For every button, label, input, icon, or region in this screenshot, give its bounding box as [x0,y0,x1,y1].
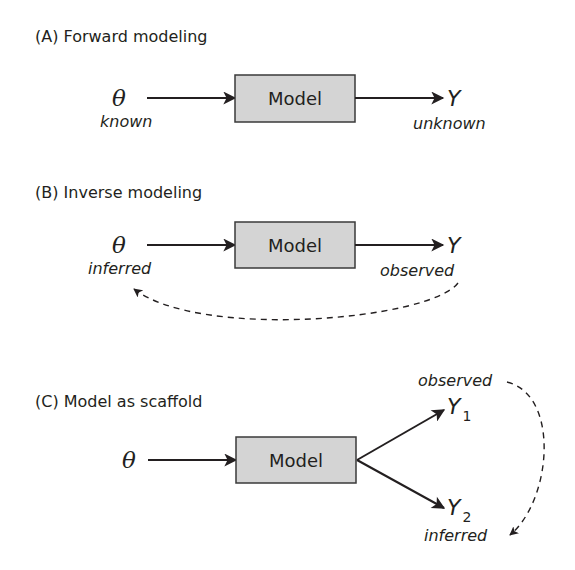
panel-c-model-as-scaffold: (C) Model as scaffold observed θ Model Y… [35,371,544,545]
model-box-label: Model [268,88,322,109]
panel-a-forward-modeling: (A) Forward modeling θ known Model Y unk… [35,27,486,133]
modeling-diagram: (A) Forward modeling θ known Model Y unk… [0,0,575,570]
y1-observed-label: observed [418,371,493,390]
y-symbol: Y [447,233,462,258]
y2-inferred-label: inferred [424,526,488,545]
output-arrow-y1 [357,410,444,460]
theta-symbol: θ [122,447,136,473]
model-box-label: Model [269,450,323,471]
model-box-label: Model [268,235,322,256]
y-observed-label: observed [380,261,455,280]
y-symbol: Y [447,86,462,111]
panel-b-title: (B) Inverse modeling [35,183,202,202]
inference-dashed-arrow [134,283,458,320]
theta-known-label: known [100,112,152,131]
output-arrow-y2 [357,460,444,508]
y-unknown-label: unknown [413,114,486,133]
y2-symbol: Y2 [447,495,471,525]
theta-symbol: θ [112,232,126,258]
theta-symbol: θ [112,85,126,111]
panel-a-title: (A) Forward modeling [35,27,208,46]
panel-c-title: (C) Model as scaffold [35,392,202,411]
y1-symbol: Y1 [447,394,471,424]
panel-b-inverse-modeling: (B) Inverse modeling θ inferred Model Y … [35,183,462,320]
theta-inferred-label: inferred [88,259,152,278]
scaffold-dashed-arrow [507,382,544,535]
